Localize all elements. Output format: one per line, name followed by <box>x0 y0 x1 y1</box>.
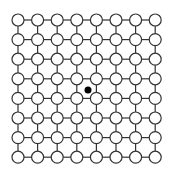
lattice-node <box>32 73 44 85</box>
lattice-node <box>12 73 24 85</box>
lattice-node <box>90 14 102 26</box>
lattice-node <box>71 14 83 26</box>
lattice-node <box>51 151 63 163</box>
lattice-node <box>71 112 83 124</box>
lattice-node <box>12 92 24 104</box>
lattice-node <box>12 34 24 46</box>
lattice-node <box>110 73 122 85</box>
lattice-node <box>90 151 102 163</box>
lattice-node <box>90 73 102 85</box>
lattice-node <box>51 112 63 124</box>
lattice-node <box>71 73 83 85</box>
lattice-node <box>110 53 122 65</box>
lattice-node <box>90 112 102 124</box>
lattice-node <box>110 14 122 26</box>
lattice-node <box>32 34 44 46</box>
lattice-node <box>71 34 83 46</box>
lattice-node <box>32 14 44 26</box>
lattice-node <box>130 73 142 85</box>
lattice-node <box>32 151 44 163</box>
lattice-node <box>110 92 122 104</box>
lattice-node <box>149 34 161 46</box>
lattice-node <box>71 151 83 163</box>
lattice-node <box>90 34 102 46</box>
lattice-node <box>149 112 161 124</box>
lattice-node <box>71 132 83 144</box>
lattice-node <box>149 151 161 163</box>
lattice-node <box>130 53 142 65</box>
lattice-node <box>12 132 24 144</box>
lattice-node <box>12 53 24 65</box>
lattice-node <box>51 34 63 46</box>
lattice-node <box>130 151 142 163</box>
lattice-node <box>90 53 102 65</box>
lattice-node <box>110 151 122 163</box>
lattice-node <box>71 92 83 104</box>
lattice-node <box>32 112 44 124</box>
lattice-node <box>149 73 161 85</box>
lattice-node <box>51 132 63 144</box>
center-dot <box>85 87 92 94</box>
lattice-node <box>12 14 24 26</box>
lattice-node <box>149 53 161 65</box>
lattice-node <box>51 92 63 104</box>
lattice-node <box>12 112 24 124</box>
lattice-node <box>130 34 142 46</box>
lattice-node <box>130 112 142 124</box>
lattice-node <box>32 132 44 144</box>
lattice-diagram <box>0 0 173 178</box>
lattice-node <box>110 34 122 46</box>
lattice-node <box>51 14 63 26</box>
lattice-node <box>32 53 44 65</box>
lattice-node <box>12 151 24 163</box>
lattice-node <box>149 14 161 26</box>
lattice-node <box>90 92 102 104</box>
lattice-node <box>51 73 63 85</box>
lattice-node <box>130 132 142 144</box>
lattice-node <box>90 132 102 144</box>
lattice-node <box>110 132 122 144</box>
lattice-node <box>130 14 142 26</box>
lattice-node <box>71 53 83 65</box>
lattice-node <box>149 132 161 144</box>
lattice-node <box>51 53 63 65</box>
lattice-node <box>32 92 44 104</box>
lattice-node <box>110 112 122 124</box>
lattice-node <box>130 92 142 104</box>
lattice-node <box>149 92 161 104</box>
